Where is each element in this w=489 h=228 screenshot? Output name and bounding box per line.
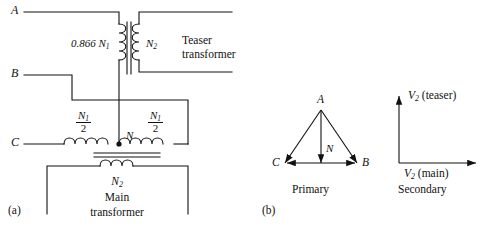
axis-label-v2-teaser-suffix: (teaser) (419, 89, 456, 101)
fraction-left-numerator: N1 (76, 110, 91, 123)
terminal-label-c: C (11, 136, 19, 148)
phasor-a-to-c (285, 110, 321, 163)
fraction-right-numerator: N1 (148, 110, 163, 123)
primary-phasor-diagram (285, 110, 357, 163)
teaser-transformer-name: Teaser transformer (182, 33, 236, 62)
teaser-secondary-turns-label: N2 (146, 38, 157, 50)
axis-label-v2-teaser-symbol: V (408, 89, 415, 101)
part-a-label: (a) (8, 205, 21, 217)
phasor-vertex-label-b: B (362, 157, 369, 169)
neutral-tap-dot (116, 141, 121, 146)
main-transformer-name-line1: Main (80, 190, 154, 205)
teaser-transformer-name-line2: transformer (182, 47, 236, 61)
part-b-label: (b) (262, 205, 275, 217)
fraction-left-denominator: 2 (76, 123, 91, 134)
teaser-primary-turns-subscript: 1 (106, 42, 110, 51)
main-primary-half-turns-left: N1 2 (76, 110, 91, 135)
teaser-secondary-turns-subscript: 2 (153, 42, 157, 51)
axis-label-v2-main-suffix: (main) (415, 167, 449, 179)
main-secondary-turns-text: N (111, 175, 119, 187)
main-secondary-turns-label: N2 (80, 174, 154, 190)
terminal-label-b: B (11, 67, 18, 79)
fraction-left: N1 2 (76, 110, 91, 135)
secondary-phasor-diagram (399, 96, 476, 163)
axis-label-v2-main: V2 (main) (404, 168, 448, 181)
secondary-phasor-caption: Secondary (398, 184, 447, 196)
fraction-right-denominator: 2 (148, 123, 163, 134)
wire-teaser-secondary-bottom (139, 60, 232, 72)
main-secondary-turns-subscript: 2 (119, 180, 123, 189)
neutral-label: N (126, 130, 133, 141)
figure-root: A B C N 0.866 N1 N2 Teaser transformer N… (0, 0, 489, 228)
phasor-a-to-b (321, 110, 357, 163)
wire-a-to-teaser-primary (24, 12, 119, 24)
phasor-vertex-label-n: N (326, 143, 333, 154)
teaser-transformer-name-line1: Teaser (182, 33, 236, 47)
primary-phasor-caption: Primary (292, 184, 329, 196)
phasor-vertex-label-a: A (317, 94, 324, 106)
phasor-vertex-label-c: C (272, 157, 280, 169)
coil-teaser-primary (119, 24, 126, 60)
axis-label-v2-teaser: V2 (teaser) (408, 90, 456, 103)
axis-label-v2-main-symbol: V (404, 167, 411, 179)
coil-main-secondary (100, 160, 133, 166)
teaser-primary-turns-text: 0.866 N (71, 37, 106, 49)
coil-main-primary-left (64, 138, 108, 144)
wire-teaser-secondary-top (139, 12, 232, 24)
terminal-label-a: A (11, 4, 18, 16)
main-primary-half-turns-right: N1 2 (148, 110, 163, 135)
coil-teaser-secondary (132, 24, 139, 60)
fraction-right: N1 2 (148, 110, 163, 135)
teaser-primary-turns-label: 0.866 N1 (71, 38, 110, 50)
main-transformer-name-block: N2 Main transformer (80, 174, 154, 220)
wire-b-to-main-right-end (24, 75, 188, 144)
main-transformer-name-line2: transformer (80, 205, 154, 220)
